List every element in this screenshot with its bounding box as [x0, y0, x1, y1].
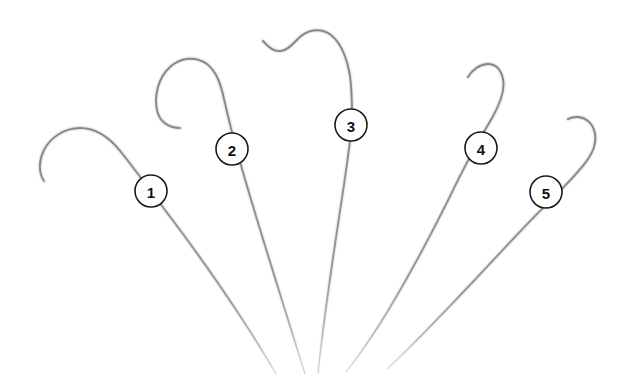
hook-4-body — [346, 64, 503, 372]
hook-2-halo — [156, 59, 305, 374]
hook-3[interactable] — [263, 30, 352, 373]
callout-3[interactable]: 3 — [335, 109, 367, 141]
callout-label-1: 1 — [147, 184, 155, 201]
hook-4-halo — [346, 64, 503, 372]
callout-label-2: 2 — [228, 142, 236, 159]
callout-label-3: 3 — [347, 118, 355, 135]
instruments-group — [40, 30, 595, 374]
callout-5[interactable]: 5 — [530, 176, 562, 208]
hook-3-core — [263, 30, 352, 373]
hook-2-core — [156, 59, 305, 374]
hook-2-body — [156, 59, 305, 374]
callout-label-4: 4 — [477, 141, 486, 158]
callout-1[interactable]: 1 — [135, 175, 167, 207]
callout-label-5: 5 — [542, 185, 550, 202]
hook-4-core — [346, 64, 503, 372]
figure-canvas: 12345 Five numbered hook instruments — [0, 0, 632, 390]
callout-2[interactable]: 2 — [216, 133, 248, 165]
hook-2[interactable] — [156, 59, 305, 374]
hook-4[interactable] — [346, 64, 503, 372]
hook-3-body — [263, 30, 352, 373]
hook-3-halo — [263, 30, 352, 373]
instruments-illustration: 12345 — [0, 0, 632, 390]
callout-4[interactable]: 4 — [465, 132, 497, 164]
